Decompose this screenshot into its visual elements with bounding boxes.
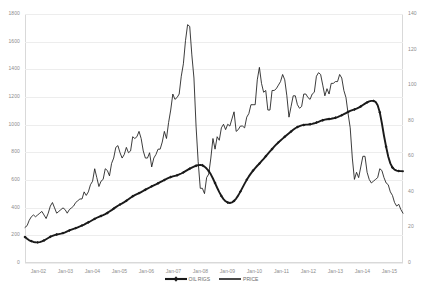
oil-rigs-line xyxy=(25,101,403,243)
series-price-line xyxy=(25,25,403,228)
legend-label-oil-rigs: OIL RIGS xyxy=(189,277,211,282)
series-oil-rigs-line xyxy=(24,99,403,243)
price-line xyxy=(25,25,403,228)
oil-rigs-vs-price-chart: 020040060080010001200140016001800 020406… xyxy=(0,0,423,296)
legend-swatch-price xyxy=(219,276,241,282)
legend-swatch-oil-rigs xyxy=(165,276,187,282)
series-layer xyxy=(0,0,423,296)
chart-legend: OIL RIGS PRICE xyxy=(0,276,423,282)
legend-item-price[interactable]: PRICE xyxy=(219,276,258,282)
legend-item-oil-rigs[interactable]: OIL RIGS xyxy=(165,276,211,282)
legend-label-price: PRICE xyxy=(243,277,258,282)
